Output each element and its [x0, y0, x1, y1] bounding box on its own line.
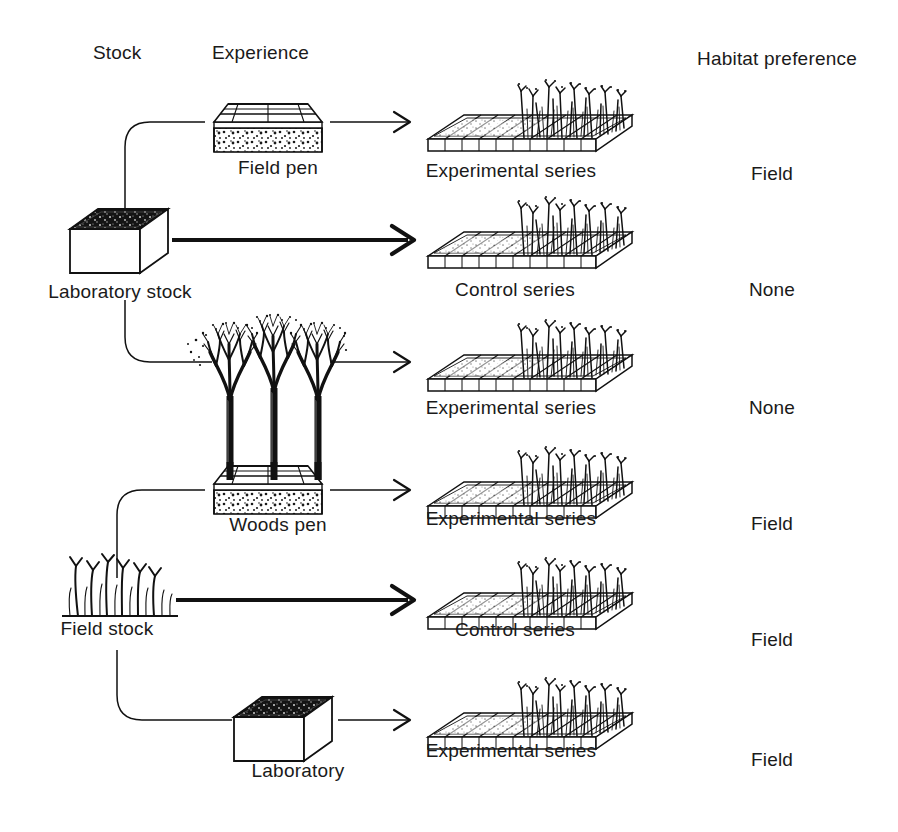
- caption-outcome-row-2: Control series: [440, 279, 590, 301]
- habitat-value-row-4: Field: [712, 513, 832, 535]
- tray-with-grass-icon-row-6: [428, 677, 632, 749]
- branch-line-lab-to-field-pen: [125, 122, 205, 213]
- experiment-flow-diagram: Stock Experience Habitat preference: [0, 0, 898, 832]
- caption-outcome-row-4: Experimental series: [411, 508, 611, 530]
- woods-pen-trunk-stubs: [230, 462, 318, 480]
- field-stock-icon: [62, 554, 178, 616]
- tray-with-grass-icon-row-2: [428, 196, 632, 268]
- caption-outcome-row-5: Control series: [440, 619, 590, 641]
- habitat-value-row-5: Field: [712, 629, 832, 651]
- branch-line-field-to-woods-pen: [117, 490, 205, 578]
- habitat-value-row-2: None: [712, 279, 832, 301]
- caption-outcome-row-6: Experimental series: [411, 740, 611, 762]
- woods-pen-trees-icon: [187, 314, 347, 480]
- column-header-stock: Stock: [93, 42, 142, 64]
- caption-field-pen: Field pen: [223, 157, 333, 179]
- habitat-value-row-6: Field: [712, 749, 832, 771]
- caption-laboratory-stock: Laboratory stock: [35, 281, 205, 303]
- caption-outcome-row-3: Experimental series: [411, 397, 611, 419]
- tray-with-grass-icon-row-3: [428, 319, 632, 391]
- column-header-experience: Experience: [212, 42, 309, 64]
- caption-laboratory: Laboratory: [233, 760, 363, 782]
- branch-line-field-to-laboratory: [117, 650, 232, 720]
- laboratory-icon: [234, 697, 332, 761]
- field-pen-icon: [214, 104, 322, 152]
- column-header-habitat-preference: Habitat preference: [697, 48, 857, 70]
- caption-outcome-row-1: Experimental series: [411, 160, 611, 182]
- arrow-thin-row-6: [338, 710, 410, 730]
- arrow-thick-row-5: [176, 586, 414, 614]
- arrow-thin-row-4: [330, 480, 410, 500]
- caption-woods-pen: Woods pen: [223, 514, 333, 536]
- habitat-value-row-1: Field: [712, 163, 832, 185]
- tray-with-grass-icon-row-1: [428, 79, 632, 151]
- arrow-thick-row-2: [172, 226, 414, 254]
- woods-pen-icon: [214, 466, 322, 514]
- arrow-thin-row-1: [330, 112, 410, 132]
- habitat-value-row-3: None: [712, 397, 832, 419]
- caption-field-stock: Field stock: [32, 618, 182, 640]
- arrow-thin-row-3: [330, 352, 410, 372]
- laboratory-stock-icon: [70, 209, 168, 273]
- branch-line-lab-to-woods-pen: [125, 300, 212, 362]
